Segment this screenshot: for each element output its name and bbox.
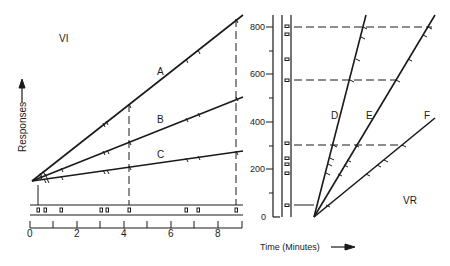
event-markers (37, 208, 238, 212)
x-tick-label-2: 2 (74, 228, 80, 239)
x-axis-ticks (30, 221, 242, 228)
y-axis-ticks (266, 27, 273, 193)
vr-title: VR (403, 195, 417, 206)
x-tick-label-0: 0 (27, 228, 33, 239)
y-tick-label-800: 800 (250, 22, 265, 32)
line-a-label: A (157, 66, 164, 77)
vi-title: VI (59, 33, 68, 44)
reinforcement-schedule-figure: VI A B C Responses 0 2 4 6 8 (0, 0, 450, 266)
time-label: Time (Minutes) (260, 242, 320, 252)
y-tick-label-200: 200 (250, 164, 265, 174)
time-arrow-icon (345, 244, 355, 250)
line-c-label: C (157, 149, 164, 160)
line-e-label: E (366, 110, 373, 121)
line-b (32, 97, 243, 181)
line-b-label: B (157, 114, 164, 125)
x-tick-label-6: 6 (168, 228, 174, 239)
line-d-hashes (326, 27, 367, 175)
x-tick-label-4: 4 (121, 228, 127, 239)
responses-arrow-icon (19, 79, 25, 88)
vi-panel (19, 15, 355, 250)
y-tick-label-0: 0 (261, 212, 266, 222)
line-f-label: F (424, 110, 430, 121)
line-d (314, 15, 366, 217)
line-d-label: D (331, 110, 338, 121)
y-tick-label-600: 600 (250, 69, 265, 79)
x-tick-label-8: 8 (215, 228, 221, 239)
event-markers-vertical (285, 25, 289, 207)
y-tick-label-400: 400 (250, 117, 265, 127)
responses-label: Responses (17, 102, 28, 152)
vr-panel (266, 15, 435, 217)
